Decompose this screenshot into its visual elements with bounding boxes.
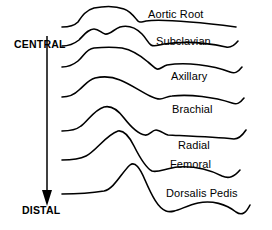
waveform-label-brachial: Brachial <box>172 104 213 115</box>
waveform-label-femoral: Femoral <box>170 159 211 170</box>
waveform-trace-subclavian <box>62 26 238 47</box>
arterial-waveform-figure: CENTRAL DISTAL Aortic Root Subclavian Ax… <box>0 0 272 230</box>
waveform-label-radial: Radial <box>178 140 210 151</box>
waveform-label-aortic-root: Aortic Root <box>148 9 204 20</box>
waveform-label-subclavian: Subclavian <box>156 36 211 47</box>
central-to-distal-arrow-icon <box>42 36 52 206</box>
waveform-trace-radial <box>62 107 246 139</box>
waveform-trace-brachial <box>62 77 244 104</box>
axis-label-central: CENTRAL <box>14 39 66 50</box>
waveform-label-axillary: Axillary <box>171 71 207 82</box>
waveform-label-dorsalis-pedis: Dorsalis Pedis <box>166 188 238 199</box>
waveform-trace-axillary <box>62 47 242 73</box>
axis-label-distal: DISTAL <box>22 205 60 216</box>
